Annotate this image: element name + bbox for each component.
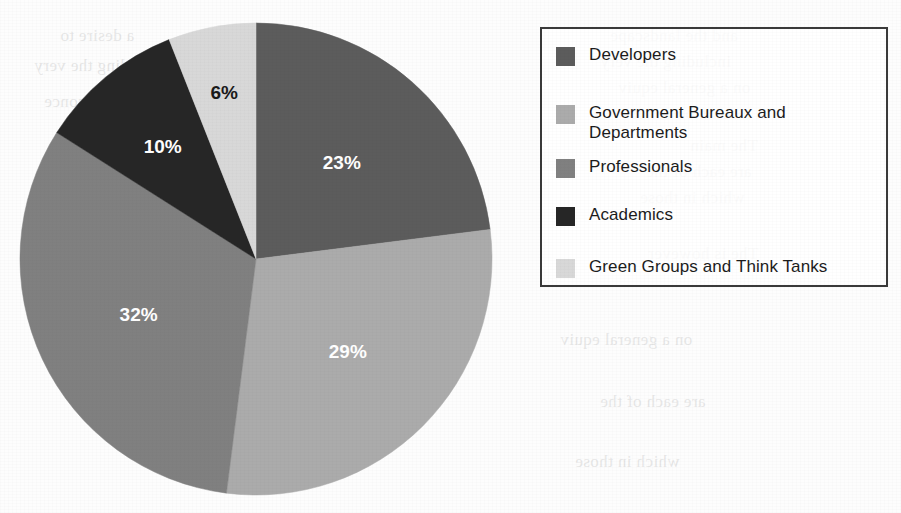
legend-item-label: Developers — [589, 45, 676, 65]
chart-page: and the landscape including the very on … — [0, 0, 901, 513]
legend-item-label: Academics — [589, 205, 673, 225]
pie-chart: 23%29%32%10%6% — [19, 22, 493, 496]
bleed-text: on a general equiv — [560, 330, 692, 350]
legend-item-label: Professionals — [589, 157, 692, 177]
bleed-text: which in those — [575, 452, 680, 472]
legend-item-label: Government Bureaux and Departments — [589, 103, 878, 143]
pie-chart-svg: 23%29%32%10%6% — [19, 22, 493, 496]
legend-color-swatch-icon — [556, 159, 575, 178]
pie-slice-value-label: 6% — [210, 82, 238, 103]
legend-color-swatch-icon — [556, 259, 575, 278]
pie-slice-value-label: 32% — [120, 304, 158, 325]
legend-item-list: DevelopersGovernment Bureaux and Departm… — [542, 29, 886, 285]
legend-item[interactable]: Developers — [556, 45, 878, 66]
bleed-text: are each of the — [600, 392, 706, 412]
pie-slice-value-label: 10% — [144, 136, 182, 157]
legend-item[interactable]: Academics — [556, 205, 878, 226]
legend-color-swatch-icon — [556, 105, 575, 124]
legend-color-swatch-icon — [556, 207, 575, 226]
legend-color-swatch-icon — [556, 47, 575, 66]
legend-item-label: Green Groups and Think Tanks — [589, 257, 827, 277]
pie-slice[interactable] — [256, 23, 490, 259]
pie-slice-value-label: 23% — [323, 152, 361, 173]
pie-slice-value-label: 29% — [329, 341, 367, 362]
pie-slice[interactable] — [226, 229, 492, 495]
pie-slice-group — [20, 23, 492, 495]
chart-legend: DevelopersGovernment Bureaux and Departm… — [540, 27, 888, 287]
legend-item[interactable]: Professionals — [556, 157, 878, 178]
legend-item[interactable]: Government Bureaux and Departments — [556, 103, 878, 143]
legend-item[interactable]: Green Groups and Think Tanks — [556, 257, 878, 278]
